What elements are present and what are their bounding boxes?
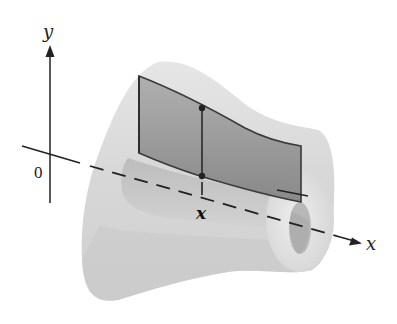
x-axis-left xyxy=(22,146,80,163)
inner-radius-point xyxy=(199,173,205,179)
origin-label: 0 xyxy=(34,164,43,181)
solid-of-revolution-diagram xyxy=(0,0,397,324)
x-axis-label: x xyxy=(366,235,376,253)
x-position-label: x xyxy=(196,205,206,222)
y-axis-arrowhead xyxy=(46,45,55,57)
x-axis-arrowhead xyxy=(349,238,362,246)
y-axis-label: y xyxy=(43,23,53,41)
outer-radius-point xyxy=(199,105,205,111)
